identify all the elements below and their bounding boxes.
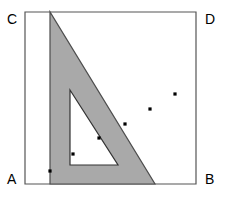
vertex-label-c: C	[7, 12, 17, 26]
marked-point	[48, 169, 51, 172]
figure-canvas	[0, 0, 229, 205]
marked-point	[173, 92, 176, 95]
vertex-label-b: B	[205, 172, 214, 186]
vertex-label-a: A	[7, 172, 16, 186]
marked-point	[97, 136, 100, 139]
marked-point	[123, 122, 126, 125]
marked-point	[71, 152, 74, 155]
vertex-label-d: D	[205, 12, 215, 26]
geometry-figure: C D A B	[0, 0, 229, 205]
marked-point	[148, 107, 151, 110]
